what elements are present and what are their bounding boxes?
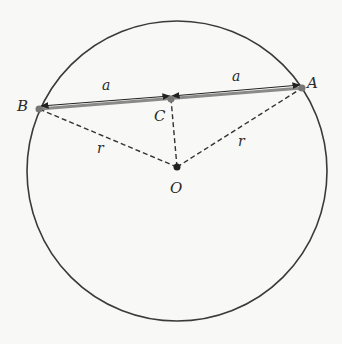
label-radius-right: r xyxy=(238,133,246,149)
diagram-canvas: A B C O a a r r xyxy=(0,0,342,344)
label-c: C xyxy=(154,107,166,125)
geometry-figure: A B C O a a r r xyxy=(0,0,342,344)
label-half-chord-left: a xyxy=(102,77,110,93)
radius-oa xyxy=(177,88,302,167)
point-b xyxy=(36,106,43,113)
label-b: B xyxy=(16,97,28,115)
label-a: A xyxy=(305,74,318,92)
point-a xyxy=(299,85,306,92)
point-c xyxy=(168,96,175,103)
circle xyxy=(27,21,327,321)
label-half-chord-right: a xyxy=(232,68,240,84)
point-o xyxy=(174,164,181,171)
label-radius-left: r xyxy=(97,140,105,156)
perpendicular-oc xyxy=(171,99,177,167)
label-o: O xyxy=(170,179,182,197)
